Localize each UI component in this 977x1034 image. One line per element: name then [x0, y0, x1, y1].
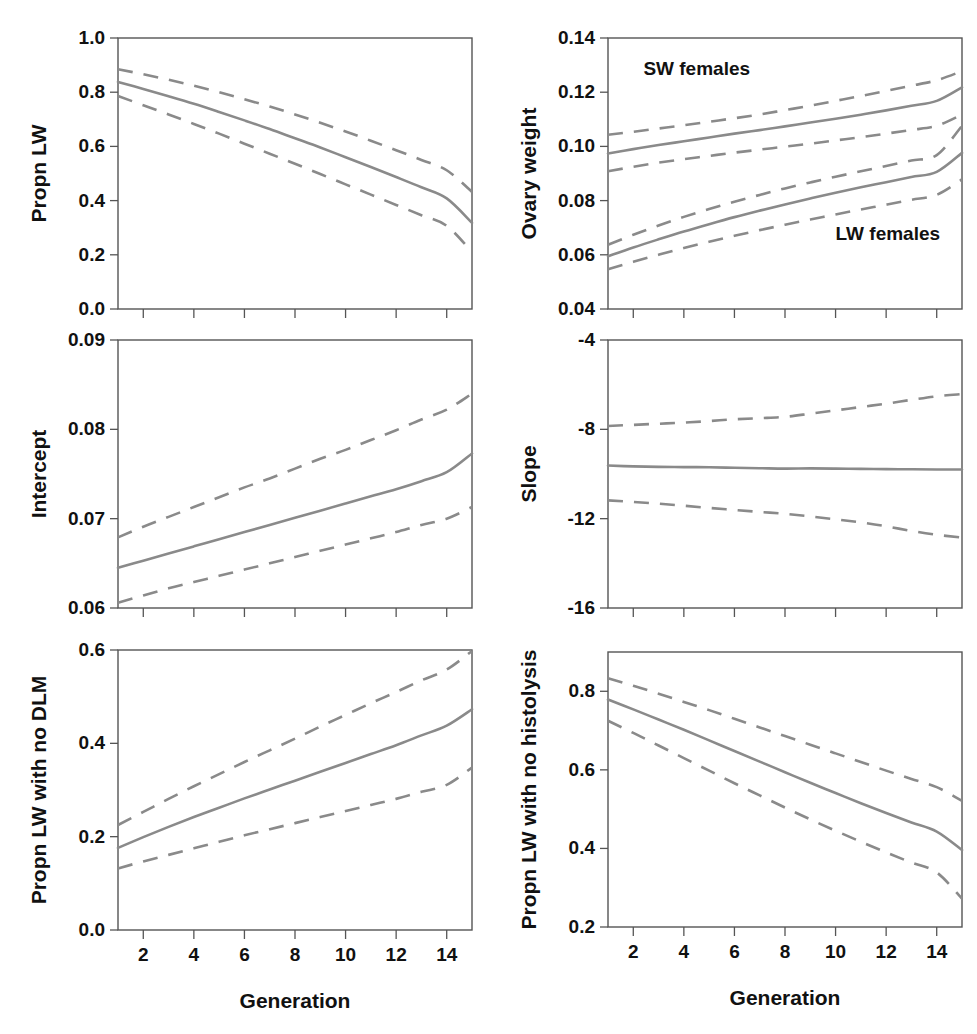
y-tick-label: 0.6	[79, 135, 105, 156]
x-axis-title: Generation	[730, 986, 841, 1009]
y-tick-label: 0.0	[79, 298, 105, 319]
y-tick-label: 0.09	[68, 329, 105, 350]
y-axis-title: Propn LW	[27, 124, 50, 222]
y-axis: -16-12-8-4	[568, 329, 608, 618]
plot-annotation: SW females	[643, 58, 750, 79]
multi-panel-figure: 0.00.20.40.60.81.0Propn LW0.040.060.080.…	[0, 0, 977, 1034]
series-line-dashed	[118, 394, 472, 538]
y-tick-label: 0.12	[558, 81, 595, 102]
y-tick-label: 0.04	[558, 298, 595, 319]
x-tick-label: 10	[335, 944, 356, 965]
x-axis	[633, 309, 936, 318]
plot-annotation: LW females	[836, 223, 941, 244]
chart-panel-propn-lw: 0.00.20.40.60.81.0Propn LW	[24, 24, 486, 323]
curves	[118, 69, 472, 252]
y-tick-label: 0.4	[79, 732, 106, 753]
y-tick-label: 0.14	[558, 27, 595, 48]
y-tick-label: 0.07	[68, 508, 105, 529]
series-line-solid	[118, 453, 472, 567]
y-tick-label: 0.2	[79, 826, 105, 847]
x-tick-label: 4	[189, 944, 200, 965]
x-tick-label: 6	[729, 941, 740, 962]
y-tick-label: 0.2	[569, 916, 595, 937]
y-tick-label: 0.0	[79, 919, 105, 940]
y-tick-label: 0.6	[569, 759, 595, 780]
curves	[608, 394, 962, 538]
series-line-dashed	[608, 394, 962, 426]
curves	[608, 678, 962, 898]
series-line-solid	[118, 82, 472, 223]
y-axis: 0.00.20.40.60.81.0	[79, 27, 118, 319]
series-line-dashed	[608, 114, 962, 171]
series-line-solid	[608, 700, 962, 850]
x-tick-label: 8	[780, 941, 791, 962]
x-tick-label: 2	[628, 941, 639, 962]
series-line-dashed	[608, 500, 962, 537]
y-tick-label: -16	[568, 597, 595, 618]
y-tick-label: 0.10	[558, 135, 595, 156]
series-line-dashed	[118, 768, 472, 869]
y-tick-label: 0.6	[79, 639, 105, 660]
y-tick-label: 0.06	[558, 244, 595, 265]
y-tick-label: -12	[568, 508, 595, 529]
y-axis: 0.060.070.080.09	[68, 329, 118, 618]
x-tick-label: 10	[825, 941, 846, 962]
y-axis-title: Slope	[517, 445, 540, 502]
x-tick-label: 8	[290, 944, 301, 965]
series-line-solid	[608, 466, 962, 470]
x-tick-label: 2	[138, 944, 149, 965]
curves	[118, 651, 472, 868]
y-axis-title: Propn LW with no histolysis	[517, 649, 540, 929]
y-tick-label: 0.08	[558, 190, 595, 211]
chart-panel-propn-lw-no-histolysis: 0.20.40.60.82468101214Propn LW with no h…	[514, 638, 976, 1031]
series-line-solid	[118, 709, 472, 848]
y-tick-label: -4	[578, 329, 595, 350]
series-line-dashed	[118, 96, 472, 252]
x-tick-label: 14	[436, 944, 458, 965]
y-axis: 0.00.20.40.6	[79, 639, 118, 940]
x-tick-label: 14	[926, 941, 948, 962]
plot-frame	[608, 38, 962, 309]
x-axis	[143, 309, 446, 318]
chart-panel-propn-lw-no-dlm: 0.00.20.40.62468101214Propn LW with no D…	[24, 636, 486, 1034]
y-tick-label: 0.4	[569, 837, 596, 858]
y-tick-label: 0.06	[68, 597, 105, 618]
series-line-dashed	[118, 69, 472, 192]
y-tick-label: 0.8	[79, 81, 105, 102]
series-line-dashed	[118, 651, 472, 825]
plot-frame	[118, 38, 472, 309]
series-line-solid	[608, 87, 962, 153]
x-axis	[143, 608, 446, 617]
x-tick-label: 4	[679, 941, 690, 962]
y-tick-label: 1.0	[79, 27, 105, 48]
x-axis: 2468101214	[628, 927, 948, 962]
x-tick-label: 6	[239, 944, 250, 965]
y-axis-title: Propn LW with no DLM	[27, 676, 50, 905]
x-axis	[633, 608, 936, 617]
y-tick-label: 0.8	[569, 680, 595, 701]
y-tick-label: -8	[578, 418, 595, 439]
curves	[118, 394, 472, 603]
x-axis: 2468101214	[138, 930, 458, 965]
series-line-dashed	[608, 721, 962, 899]
x-tick-label: 12	[876, 941, 897, 962]
y-tick-label: 0.4	[79, 190, 106, 211]
series-line-dashed	[118, 507, 472, 603]
y-tick-label: 0.2	[79, 244, 105, 265]
chart-panel-slope: -16-12-8-4Slope	[514, 326, 976, 622]
y-axis: 0.040.060.080.100.120.14	[558, 27, 608, 319]
chart-panel-intercept: 0.060.070.080.09Intercept	[24, 326, 486, 622]
y-axis: 0.20.40.60.8	[569, 680, 608, 937]
series-line-dashed	[608, 678, 962, 801]
y-tick-label: 0.08	[68, 418, 105, 439]
plot-frame	[608, 340, 962, 608]
y-axis-title: Intercept	[27, 430, 50, 519]
x-axis-title: Generation	[240, 989, 351, 1012]
plot-frame	[118, 340, 472, 608]
plot-frame	[118, 650, 472, 930]
chart-panel-ovary-weight: 0.040.060.080.100.120.14SW femalesLW fem…	[514, 24, 976, 323]
y-axis-title: Ovary weight	[517, 108, 540, 240]
x-tick-label: 12	[386, 944, 407, 965]
